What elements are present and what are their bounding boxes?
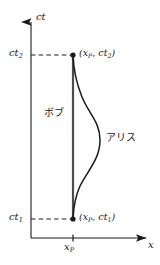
- event-label-top-close-paren: ): [111, 47, 115, 58]
- x-axis-label: x: [148, 240, 154, 250]
- event-label-bottom: (xP, ct1): [79, 212, 115, 222]
- event-label-top: (xP, ct2): [79, 48, 115, 58]
- ct-axis-label: ct: [36, 12, 46, 22]
- tick-label-ct1: ct1: [9, 212, 23, 222]
- tick-label-ct2-base: ct: [9, 47, 19, 58]
- worldline-alice: [73, 55, 100, 219]
- tick-label-xp: xP: [64, 242, 74, 252]
- event-label-bottom-close-paren: ): [111, 211, 115, 222]
- event-label-bottom-x-subscript: P: [88, 216, 92, 223]
- event-label-top-x-subscript: P: [88, 52, 92, 59]
- tick-label-xp-base: x: [64, 241, 70, 252]
- worldline-label-alice: アリス: [106, 133, 136, 143]
- event-label-top-t-subscript: 2: [107, 52, 111, 59]
- worldline-label-bob: ボブ: [44, 108, 64, 118]
- spacetime-diagram: ct x ct2 ct1 xP (xP, ct2) (xP, ct1) ボブ ア…: [0, 0, 160, 265]
- event-dot-top: [70, 52, 75, 57]
- diagram-canvas: [0, 0, 160, 265]
- tick-label-xp-subscript: P: [70, 246, 74, 254]
- tick-label-ct1-subscript: 1: [19, 216, 23, 224]
- tick-label-ct2-subscript: 2: [19, 52, 23, 60]
- tick-label-ct1-base: ct: [9, 211, 19, 222]
- event-label-bottom-t-subscript: 1: [107, 216, 111, 223]
- tick-label-ct2: ct2: [9, 48, 23, 58]
- event-dot-bottom: [70, 216, 75, 221]
